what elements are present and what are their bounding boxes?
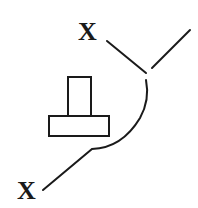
upper-right-line [152, 30, 190, 68]
label-x-bottom: X [17, 176, 36, 205]
diagram-canvas: X X [0, 0, 198, 208]
upper-left-line [107, 41, 146, 73]
wide-rectangle [49, 116, 109, 136]
label-x-top: X [78, 17, 97, 46]
tall-rectangle [68, 77, 91, 116]
diagram-svg: X X [0, 0, 198, 208]
